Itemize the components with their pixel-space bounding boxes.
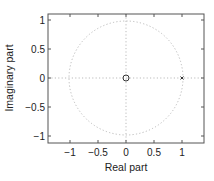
- x-tick-label: 0.5: [147, 147, 161, 158]
- pole-zero-plot: −1 −0.5 0 0.5 1 1 0.5 0 −0.5 −1 Real par…: [0, 0, 214, 181]
- y-tick-label: −0.5: [25, 102, 45, 113]
- y-tick-label: 1: [39, 15, 45, 26]
- y-axis-label: Imaginary part: [3, 44, 15, 111]
- x-tick-label: −0.5: [88, 147, 108, 158]
- y-tick-label: 0.5: [31, 44, 45, 55]
- x-tick-label: −1: [64, 147, 76, 158]
- y-tick-label: −1: [34, 131, 46, 142]
- y-tick-label: 0: [39, 73, 45, 84]
- x-axis-label: Real part: [105, 161, 148, 173]
- x-tick-label: 1: [179, 147, 185, 158]
- x-tick-label: 0: [123, 147, 129, 158]
